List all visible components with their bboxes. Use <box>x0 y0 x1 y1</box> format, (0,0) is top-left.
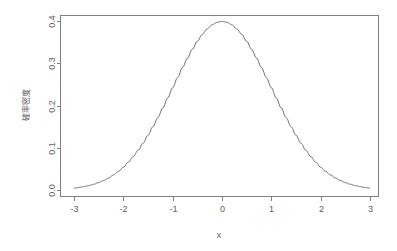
x-tick-label: 1 <box>269 204 274 214</box>
x-tick-label: 3 <box>368 204 373 214</box>
y-tick-label: 0.2 <box>47 100 57 113</box>
y-tick-label: 0.0 <box>47 184 57 197</box>
y-axis-tick-labels: 0.00.10.20.30.4 <box>47 15 57 197</box>
x-tick-label: -3 <box>70 204 78 214</box>
x-tick-label: -1 <box>169 204 177 214</box>
x-axis-title: x <box>217 230 222 240</box>
y-tick-label: 0.1 <box>47 142 57 155</box>
y-axis-ticks <box>57 22 61 191</box>
chart-container: -3-2-10123 0.00.10.20.30.4 x 確率密度 <box>0 0 397 251</box>
density-curve <box>74 21 370 188</box>
y-tick-label: 0.3 <box>47 57 57 70</box>
plot-panel-border <box>61 16 379 197</box>
x-axis-tick-labels: -3-2-10123 <box>70 204 373 214</box>
y-tick-label: 0.4 <box>47 15 57 28</box>
y-axis-title: 確率密度 <box>21 89 31 121</box>
x-tick-label: 0 <box>220 204 225 214</box>
normal-distribution-plot: -3-2-10123 0.00.10.20.30.4 x 確率密度 <box>0 0 397 251</box>
x-tick-label: 2 <box>319 204 324 214</box>
x-tick-label: -2 <box>119 204 127 214</box>
x-axis-ticks <box>75 197 371 201</box>
